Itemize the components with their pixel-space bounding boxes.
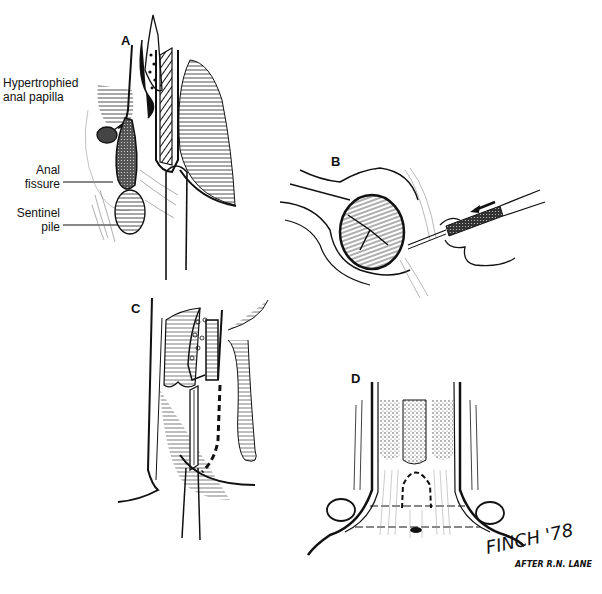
panel-a: A Hypertrophied anal papilla Anal fissur… <box>0 0 260 285</box>
illustration-anal-canal-cross-section <box>300 360 602 594</box>
panel-b: B <box>260 150 560 300</box>
panel-d: D FINCH '78 A <box>300 360 602 594</box>
illustration-retractor-and-knife <box>260 150 560 300</box>
artist-credit: AFTER R.N. LANE <box>515 560 592 569</box>
illustration-anal-canal-fissure <box>0 0 260 285</box>
illustration-internal-sphincterotomy <box>110 290 280 550</box>
panel-c: C <box>110 290 280 550</box>
